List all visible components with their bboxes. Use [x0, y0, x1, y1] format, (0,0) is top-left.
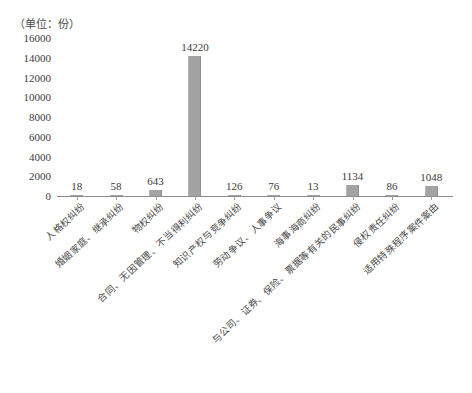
bar-value-label: 76 [268, 181, 279, 192]
bar-value-label: 643 [147, 176, 164, 187]
bar-value-label: 13 [308, 181, 319, 192]
y-axis-tick-label: 8000 [29, 112, 51, 123]
bar [346, 185, 359, 196]
x-axis-tick [116, 196, 117, 200]
x-axis-category-label: 适用特殊程序案件案由 [362, 202, 442, 277]
unit-caption: （单位：份） [14, 15, 80, 31]
y-axis-tick-label: 16000 [24, 33, 52, 44]
x-axis-tick [313, 196, 314, 200]
x-axis-tick [353, 196, 354, 200]
x-axis-category-label: 物权纠纷 [130, 202, 166, 236]
bar-value-label: 18 [71, 181, 82, 192]
y-axis-tick-label: 12000 [24, 72, 52, 83]
bar-value-label: 58 [111, 181, 122, 192]
bar [425, 186, 438, 196]
x-axis-tick [234, 196, 235, 200]
x-axis-tick [195, 196, 196, 200]
bar-value-label: 86 [386, 181, 397, 192]
y-axis-tick-label: 4000 [29, 151, 51, 162]
x-axis-tick [392, 196, 393, 200]
bar-chart-figure: （单位：份） 020004000600080001000012000140001… [0, 0, 472, 393]
x-axis-category-label: 知识产权与竞争纠纷 [172, 202, 244, 270]
x-axis-category-label: 与公司、证券、保险、票据等有关的民事纠纷 [210, 202, 363, 345]
bar-value-label: 14220 [181, 42, 209, 53]
x-axis-category-label: 劳动争议、人事争议 [212, 202, 284, 270]
y-axis-tick-label: 2000 [29, 171, 51, 182]
x-axis-tick [77, 196, 78, 200]
y-axis-tick-label: 14000 [24, 52, 52, 63]
x-axis-tick [156, 196, 157, 200]
bar [188, 56, 201, 196]
y-axis-tick-label: 10000 [24, 92, 52, 103]
y-axis-tick-label: 6000 [29, 131, 51, 142]
x-axis-category-label: 婚姻家庭、继承纠纷 [54, 202, 126, 270]
bar-value-label: 1134 [342, 171, 364, 182]
plot-area: 0200040006000800010000120001400016000 18… [57, 38, 451, 196]
y-axis-tick-label: 0 [46, 191, 52, 202]
bar-value-label: 1048 [420, 172, 442, 183]
x-axis-tick [431, 196, 432, 200]
x-axis-tick [274, 196, 275, 200]
bar-value-label: 126 [226, 181, 243, 192]
